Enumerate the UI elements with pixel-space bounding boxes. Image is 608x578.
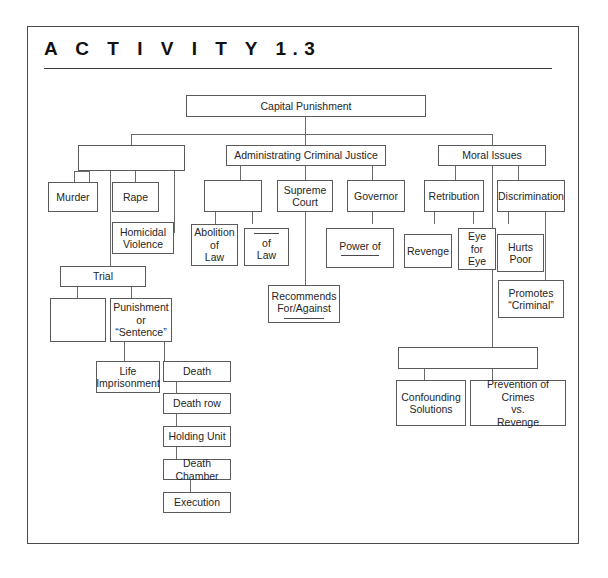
node-admin-blank: [204, 180, 262, 212]
connector-main-bus: [131, 134, 492, 135]
node-hurts-poor: Hurts Poor: [497, 234, 544, 272]
node-eye-for-eye: Eye for Eye: [458, 228, 496, 270]
node-confounding-solutions: Confounding Solutions: [396, 380, 466, 426]
node-holding-unit: Holding Unit: [163, 426, 231, 447]
connector-root-stem: [305, 117, 306, 134]
node-punishment: Punishment or “Sentence”: [110, 298, 172, 342]
connector-bus-to-admin: [305, 134, 306, 145]
connector-deathrow-to-holding: [176, 414, 177, 426]
connector-admin-to-supreme: [305, 166, 306, 180]
connector-discrimination-to-promotes: [545, 212, 546, 280]
connector-crimes-murder-drop: [89, 171, 90, 182]
connector-admin-to-governor: [372, 166, 373, 180]
node-life-imprisonment: Life Imprisonment: [96, 361, 160, 393]
node-moral-bottom-blank: [398, 347, 538, 369]
connector-supreme-to-recommends: [305, 212, 306, 285]
connector-adminblank-to-abolition: [215, 212, 216, 224]
connector-crimes-to-homicidal: [174, 171, 175, 233]
node-promotes-criminal: Promotes “Criminal”: [498, 280, 564, 318]
connector-death-to-deathrow: [176, 382, 177, 393]
connector-moral-to-discrimination: [518, 166, 519, 180]
connector-trial-right: [131, 287, 132, 298]
connector-crimes-to-rape: [135, 171, 136, 182]
connector-crimes-murder-elbow: [74, 171, 89, 172]
connector-bus-to-moral: [492, 134, 493, 145]
node-governor: Governor: [347, 180, 405, 212]
connector-discrimination-to-hurts: [508, 212, 509, 224]
node-power-of: Power of: [326, 228, 394, 268]
connector-crimes-to-murder: [74, 171, 75, 182]
node-trial-blank: [50, 298, 106, 342]
connector-bottomblank-to-confounding: [424, 369, 425, 380]
node-administrating-criminal-justice: Administrating Criminal Justice: [226, 145, 386, 166]
fill-in-blank-line: [341, 255, 379, 256]
connector-bus-to-crimes: [131, 134, 132, 145]
node-trial: Trial: [60, 266, 146, 287]
node-abolition-of-law: Abolition of Law: [191, 224, 238, 266]
node-murder: Murder: [48, 182, 98, 212]
connector-governor-to-powerof: [372, 212, 373, 224]
node-prevention-vs-revenge: Prevention of Crimes vs. Revenge: [470, 380, 566, 426]
fill-in-blank-line: [284, 318, 325, 319]
title-divider: [44, 68, 552, 69]
node-discrimination: Discrimination: [497, 180, 565, 212]
node-crimes-blank: [78, 145, 185, 171]
connector-moral-to-retribution: [455, 166, 456, 180]
node-rape: Rape: [112, 182, 159, 212]
fill-in-blank-line: [254, 233, 278, 234]
page-title: A C T I V I T Y 1.3: [44, 38, 321, 60]
connector-retribution-to-eye: [473, 212, 474, 224]
connector-punishment-right: [164, 342, 165, 361]
node-moral-issues: Moral Issues: [438, 145, 546, 166]
node-retribution: Retribution: [424, 180, 484, 212]
connector-trial-left: [77, 287, 78, 298]
connector-admin-to-blank: [240, 166, 241, 180]
connector-retribution-to-revenge: [434, 212, 435, 224]
node-blank-of-law: of Law: [244, 228, 289, 266]
node-execution: Execution: [163, 492, 231, 513]
node-death-row: Death row: [163, 393, 231, 414]
connector-crimes-spine: [110, 171, 111, 266]
node-recommends-for-against: Recommends For/Against: [268, 285, 340, 323]
node-homicidal-violence: Homicidal Violence: [112, 222, 174, 254]
node-supreme-court: Supreme Court: [277, 180, 333, 212]
node-death: Death: [163, 361, 231, 382]
connector-punishment-left: [124, 342, 125, 361]
node-capital-punishment: Capital Punishment: [186, 95, 426, 117]
node-revenge: Revenge: [404, 234, 452, 268]
node-death-chamber: Death Chamber: [163, 459, 231, 480]
connector-adminblank-to-oflaw: [252, 212, 253, 224]
